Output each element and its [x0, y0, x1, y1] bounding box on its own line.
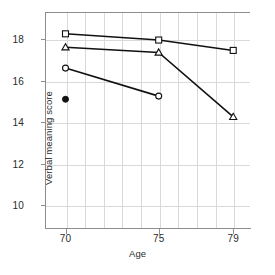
y-tick-label: 18: [0, 34, 24, 45]
marker-circle: [63, 65, 69, 71]
y-tick-mark: [41, 122, 45, 123]
chart-figure: Verbal meaning score Age 101214161870757…: [0, 0, 275, 275]
x-tick-label: 70: [60, 233, 72, 244]
y-tick-label: 10: [0, 200, 24, 211]
y-tick-label: 16: [0, 75, 24, 86]
x-tick-label: 79: [227, 233, 239, 244]
series-line: [66, 47, 234, 117]
marker-square: [156, 37, 162, 43]
x-tick-label: 75: [153, 233, 165, 244]
y-tick-mark: [41, 81, 45, 82]
marker-square: [230, 47, 236, 53]
y-tick-mark: [41, 39, 45, 40]
y-tick-label: 14: [0, 117, 24, 128]
y-tick-label: 12: [0, 158, 24, 169]
y-tick-mark: [41, 164, 45, 165]
y-tick-mark: [41, 205, 45, 206]
marker-circle: [156, 93, 162, 99]
marker-filled-circle: [63, 96, 69, 102]
marker-square: [63, 31, 69, 37]
series-line: [66, 68, 159, 96]
